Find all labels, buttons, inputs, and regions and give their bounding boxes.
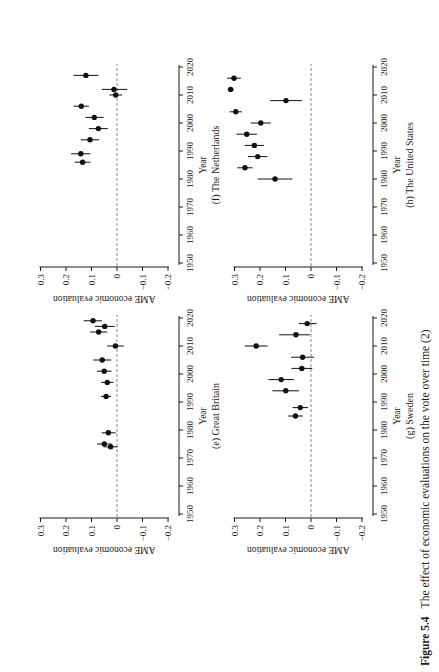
y-tick-label: 0 [306, 525, 316, 530]
y-tick-label: 0.2 [255, 525, 265, 536]
figure-caption-number: Figure 5.4 [419, 616, 431, 666]
data-point [102, 369, 107, 374]
y-tick-label: 0.2 [61, 525, 71, 536]
y-tick-label: 0 [112, 525, 122, 530]
x-tick-label: 1990 [379, 142, 389, 161]
x-tick-label: 2010 [379, 86, 389, 105]
data-point [258, 120, 263, 125]
x-tick-label: 2000 [379, 114, 389, 133]
x-tick-label: 2020 [379, 309, 389, 328]
y-tick-label: 0 [306, 274, 316, 279]
panel-caption: (h) The United States [404, 122, 416, 208]
data-point [300, 355, 305, 360]
scanned-figure-page: 0.30.20.10−0.1−0.21950196019701980199020… [0, 0, 439, 672]
data-point [87, 137, 92, 142]
data-point [106, 430, 111, 435]
x-tick-label: 1990 [185, 142, 195, 161]
data-point [298, 405, 303, 410]
y-tick-label: 0.1 [281, 274, 291, 285]
x-tick-label: 1950 [379, 254, 389, 273]
figure-chart-svg: 0.30.20.10−0.1−0.21950196019701980199020… [0, 0, 439, 672]
x-axis-title: Year [198, 155, 208, 173]
data-point [231, 76, 236, 81]
data-point [80, 160, 85, 165]
panel-e: 0.30.20.10−0.1−0.21950196019701980199020… [36, 309, 223, 556]
panel-caption: (e) Great Britain [210, 383, 222, 449]
data-point [105, 380, 110, 385]
data-point [90, 318, 95, 323]
x-tick-label: 1980 [379, 170, 389, 189]
x-tick-label: 1970 [379, 198, 389, 217]
data-point [272, 176, 277, 181]
data-point [113, 92, 118, 97]
x-tick-label: 2000 [185, 365, 195, 384]
rotated-figure-canvas: 0.30.20.10−0.1−0.21950196019701980199020… [0, 0, 439, 672]
x-tick-label: 2010 [379, 337, 389, 356]
data-point [278, 377, 283, 382]
x-axis-title: Year [392, 155, 402, 173]
x-tick-label: 1980 [185, 170, 195, 189]
data-point [304, 321, 309, 326]
x-tick-label: 1970 [379, 449, 389, 468]
x-tick-label: 1950 [185, 505, 195, 524]
y-tick-label: −0.2 [163, 525, 173, 541]
x-tick-label: 1970 [185, 198, 195, 217]
data-point [111, 87, 116, 92]
panel-g: 0.30.20.10−0.1−0.21950196019701980199020… [230, 309, 417, 556]
x-tick-label: 1950 [185, 254, 195, 273]
x-tick-label: 1960 [379, 477, 389, 496]
data-point [252, 143, 257, 148]
x-tick-label: 2010 [185, 86, 195, 105]
y-tick-label: −0.1 [332, 525, 342, 541]
y-tick-label: −0.2 [357, 525, 367, 541]
y-axis-title: AME economic evaluation [53, 294, 156, 304]
data-point [293, 332, 298, 337]
y-tick-label: 0.2 [61, 274, 71, 285]
y-axis-title: AME economic evaluation [247, 294, 350, 304]
data-point [255, 154, 260, 159]
data-point [100, 357, 105, 362]
data-point [92, 115, 97, 120]
y-tick-label: 0.3 [36, 274, 46, 286]
x-tick-label: 2020 [185, 58, 195, 77]
y-tick-label: −0.2 [163, 274, 173, 290]
y-tick-label: −0.2 [357, 274, 367, 290]
y-axis-title: AME economic evaluation [247, 545, 350, 555]
x-tick-label: 2010 [185, 337, 195, 356]
data-point [102, 324, 107, 329]
data-point [103, 394, 108, 399]
data-point [102, 441, 107, 446]
y-tick-label: 0.3 [230, 274, 240, 286]
x-tick-label: 2020 [185, 309, 195, 328]
data-point [96, 126, 101, 131]
y-axis-title: AME economic evaluation [53, 545, 156, 555]
data-point [283, 98, 288, 103]
x-tick-label: 1950 [379, 505, 389, 524]
panel-h: 0.30.20.10−0.1−0.21950196019701980199020… [227, 58, 416, 305]
data-point [244, 132, 249, 137]
x-tick-label: 1970 [185, 449, 195, 468]
x-axis-title: Year [198, 406, 208, 424]
data-point [233, 109, 238, 114]
y-tick-label: 0.3 [36, 525, 46, 537]
x-tick-label: 1960 [185, 226, 195, 245]
y-tick-label: −0.1 [138, 274, 148, 290]
y-tick-label: 0.2 [255, 274, 265, 285]
x-tick-label: 1990 [379, 393, 389, 412]
figure-caption-text: The effect of economic evaluations on th… [419, 330, 431, 609]
y-tick-label: 0.1 [281, 525, 291, 536]
data-point [293, 413, 298, 418]
y-tick-label: 0.1 [87, 525, 97, 536]
data-point [283, 388, 288, 393]
x-tick-label: 2020 [379, 58, 389, 77]
data-point [78, 151, 83, 156]
x-tick-label: 1990 [185, 393, 195, 412]
x-tick-label: 2000 [379, 365, 389, 384]
panel-caption: (g) Sweden [404, 393, 416, 439]
x-axis-title: Year [392, 406, 402, 424]
y-tick-label: 0 [112, 274, 122, 279]
x-tick-label: 2000 [185, 114, 195, 133]
y-tick-label: 0.3 [230, 525, 240, 537]
data-point [108, 444, 113, 449]
data-point [79, 104, 84, 109]
